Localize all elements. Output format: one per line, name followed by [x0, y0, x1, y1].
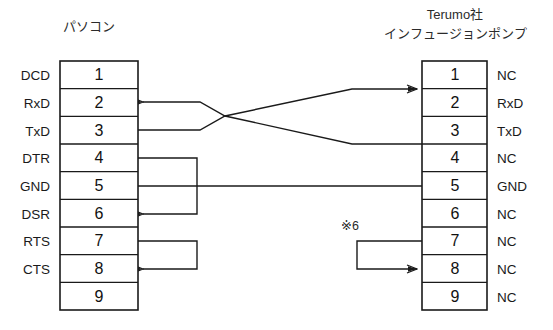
left-connector-title: パソコン — [63, 19, 115, 34]
right-pin-number: 1 — [451, 66, 460, 83]
right-signal-label: NC — [497, 262, 517, 277]
left-pin-number: 3 — [95, 122, 104, 139]
left-signal-label: DCD — [21, 68, 50, 83]
left-pin-number: 8 — [95, 260, 104, 277]
right-pin-numbers: 1 2 3 4 5 6 7 8 9 — [451, 66, 460, 305]
left-signal-label: CTS — [23, 262, 50, 277]
right-pin-number: 8 — [451, 260, 460, 277]
left-signal-label: DSR — [21, 207, 50, 222]
note-marker-label: ※6 — [341, 219, 359, 233]
right-connector-title-line1: Terumo社 — [427, 7, 483, 22]
right-pin-number: 5 — [451, 177, 460, 194]
left-pin-number: 2 — [95, 94, 104, 111]
right-signal-label: NC — [497, 207, 517, 222]
right-signal-label: NC — [497, 151, 517, 166]
left-signal-label: GND — [20, 179, 50, 194]
left-signal-label: DTR — [22, 151, 50, 166]
serial-cable-wiring-diagram: パソコン Terumo社 インフュージョンポンプ ※6 1 2 3 4 — [0, 0, 553, 330]
left-pin-number: 6 — [95, 205, 104, 222]
right-signal-label: TxD — [497, 124, 522, 139]
left-pin-number: 1 — [95, 66, 104, 83]
right-connector-title-line2: インフュージョンポンプ — [384, 26, 527, 41]
left-pin-number: 9 — [95, 288, 104, 305]
right-signal-label: NC — [497, 68, 517, 83]
left-signal-label: TxD — [25, 124, 50, 139]
right-signal-label: GND — [497, 179, 527, 194]
left-pin-number: 7 — [95, 232, 104, 249]
right-pin-number: 4 — [451, 149, 460, 166]
right-pin-number: 9 — [451, 288, 460, 305]
right-pin-number: 3 — [451, 122, 460, 139]
right-signal-label: RxD — [497, 96, 523, 111]
right-pin-number: 7 — [451, 232, 460, 249]
left-pin-number: 4 — [95, 149, 104, 166]
left-pin-number: 5 — [95, 177, 104, 194]
right-pin-number: 6 — [451, 205, 460, 222]
right-signal-label: NC — [497, 234, 517, 249]
left-signal-label: RTS — [23, 234, 50, 249]
right-pin-number: 2 — [451, 94, 460, 111]
left-signal-label: RxD — [24, 96, 50, 111]
right-signal-label: NC — [497, 290, 517, 305]
left-pin-numbers: 1 2 3 4 5 6 7 8 9 — [95, 66, 104, 305]
